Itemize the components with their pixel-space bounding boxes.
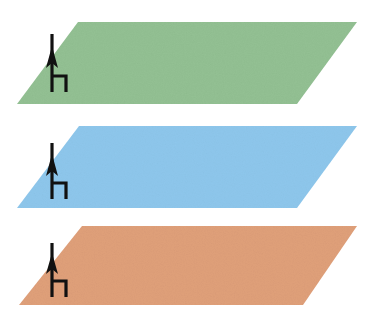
layer-blue-group[interactable] bbox=[17, 126, 357, 208]
salmon-plane-shape[interactable] bbox=[19, 226, 357, 305]
green-plane-shape[interactable] bbox=[17, 22, 357, 104]
blue-plane-shape[interactable] bbox=[17, 126, 357, 208]
stacked-planes-diagram bbox=[0, 0, 377, 335]
layer-green-group[interactable] bbox=[17, 22, 357, 104]
layer-salmon-group[interactable] bbox=[19, 226, 357, 305]
figure-canvas: Three stacked parallelogram planes with … bbox=[0, 0, 377, 335]
